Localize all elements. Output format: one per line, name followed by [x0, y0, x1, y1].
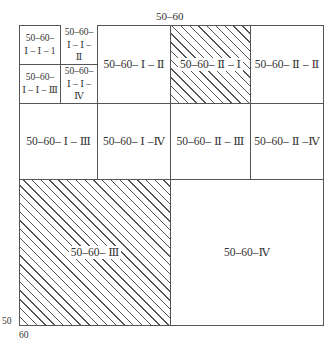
- cell-50-60-i-i-2: 50–60– Ⅰ – Ⅰ – Ⅱ: [60, 25, 98, 65]
- cell-50-60-i-i-4: 50–60– Ⅰ – Ⅰ –Ⅳ: [60, 64, 98, 104]
- cell-50-60-ii-i: 50–60– Ⅱ – Ⅰ: [170, 25, 251, 104]
- cell-50-60-i-iv: 50–60– Ⅰ –Ⅳ: [97, 103, 171, 180]
- x-axis-label: 60: [19, 330, 29, 340]
- cell-50-60-ii-iii: 50–60– Ⅱ – Ⅲ: [170, 103, 251, 180]
- cell-50-60-i-iii: 50–60– Ⅰ – Ⅲ: [19, 103, 98, 180]
- cell-label: 50–60– Ⅱ – Ⅰ: [178, 58, 243, 72]
- cell-label: 50–60– Ⅰ – Ⅰ – Ⅲ: [20, 70, 60, 98]
- sheet-top-label: 50–60: [156, 10, 184, 22]
- cell-label: 50–60– Ⅰ – Ⅰ –Ⅳ: [61, 64, 97, 104]
- cell-label: 50–60– Ⅲ: [69, 246, 121, 260]
- cell-label: 50–60– Ⅱ – Ⅱ: [253, 58, 322, 72]
- y-axis-label: 50: [2, 316, 12, 326]
- cell-label: 50–60– Ⅰ – Ⅰ – 1: [22, 31, 57, 59]
- cell-label: 50–60– Ⅰ – Ⅰ – Ⅱ: [61, 25, 97, 65]
- cell-label: 50–60– Ⅱ – Ⅲ: [175, 135, 247, 149]
- cell-50-60-iv: 50–60–Ⅳ: [170, 179, 324, 326]
- cell-50-60-i-ii: 50–60– Ⅰ – Ⅱ: [97, 25, 171, 104]
- cell-label: 50–60– Ⅰ – Ⅱ: [101, 58, 166, 72]
- cell-50-60-ii-ii: 50–60– Ⅱ – Ⅱ: [250, 25, 324, 104]
- cell-50-60-ii-iv: 50–60– Ⅱ –Ⅳ: [250, 103, 324, 180]
- cell-label: 50–60–Ⅳ: [222, 246, 272, 260]
- cell-label: 50–60– Ⅱ –Ⅳ: [252, 135, 321, 149]
- cell-50-60-iii: 50–60– Ⅲ: [19, 179, 171, 326]
- cell-50-60-i-i-1: 50–60– Ⅰ – Ⅰ – 1: [19, 25, 61, 65]
- cell-50-60-i-i-3: 50–60– Ⅰ – Ⅰ – Ⅲ: [19, 64, 61, 104]
- cell-label: 50–60– Ⅰ – Ⅲ: [24, 135, 93, 149]
- cell-label: 50–60– Ⅰ –Ⅳ: [101, 135, 167, 149]
